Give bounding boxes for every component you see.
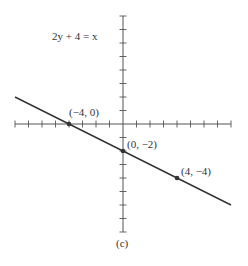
figure-label: (c) — [116, 237, 129, 250]
point-label: (0, −2) — [127, 138, 157, 151]
point-label: (4, −4) — [181, 165, 211, 178]
point-label: (−4, 0) — [69, 106, 99, 119]
equation-label: 2y + 4 = x — [52, 30, 98, 42]
data-point — [121, 149, 126, 154]
points: (−4, 0)(0, −2)(4, −4) — [67, 106, 212, 180]
graph: (−4, 0)(0, −2)(4, −4) 2y + 4 = x (c) — [0, 0, 248, 266]
data-point — [67, 122, 72, 127]
data-point — [175, 176, 180, 181]
axes — [15, 16, 231, 232]
